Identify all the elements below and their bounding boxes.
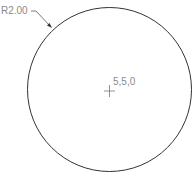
drawing-svg: R2.00 5,5,0 (0, 0, 192, 176)
center-point-marker[interactable]: 5,5,0 (104, 76, 136, 97)
center-coordinate-label: 5,5,0 (113, 76, 136, 87)
drawing-canvas: R2.00 5,5,0 (0, 0, 192, 176)
radius-dimension[interactable]: R2.00 (1, 5, 52, 28)
radius-label: R2.00 (1, 5, 28, 16)
